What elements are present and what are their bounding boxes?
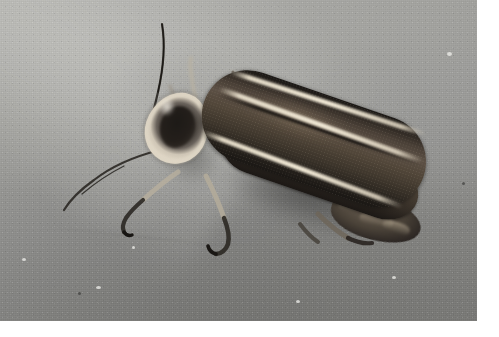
photo-margin-bottom xyxy=(0,321,499,337)
hindleg xyxy=(0,0,477,321)
screenshot-root xyxy=(0,0,499,337)
photo-margin-right xyxy=(477,0,499,337)
firefly xyxy=(0,0,477,321)
photograph xyxy=(0,0,477,321)
